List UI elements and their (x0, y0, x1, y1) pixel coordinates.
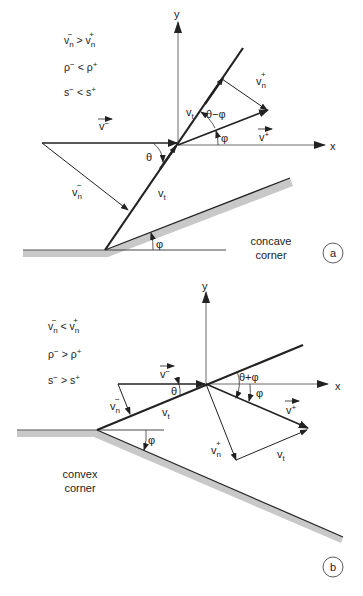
caption-concave-line2: corner (255, 249, 287, 261)
panel-badge-b-label: b (330, 561, 336, 573)
theta-plus-phi-label-b: θ+φ (239, 371, 259, 383)
panel-badge-a-label: a (330, 247, 337, 259)
relation-rho-a: ρ−<ρ+ (64, 60, 98, 73)
x-axis-label-b: x (335, 380, 341, 392)
y-axis-label-b: y (202, 280, 208, 292)
panel-b: vn−<vn+ ρ−>ρ+ s−>s+ y x (17, 280, 343, 577)
relations-a: vn−>vn+ ρ−<ρ+ s−<s+ (64, 30, 98, 98)
phi-flow-label-b: φ (256, 387, 263, 399)
relation-vn-b: vn−<vn+ (48, 316, 79, 335)
relations-b: vn−<vn+ ρ−>ρ+ s−>s+ (48, 316, 82, 386)
vn-minus-label-b: vn− (110, 395, 120, 415)
vt-arrow-upper-a (205, 78, 223, 104)
oblique-shock-diagram: vn−>vn+ ρ−<ρ+ s−<s+ y x (0, 0, 363, 596)
vn-minus-label-a: vn− (72, 181, 82, 201)
caption-convex-line2: corner (64, 482, 96, 494)
caption-concave-line1: concave (251, 235, 292, 247)
vt-vector-b (236, 430, 307, 460)
relation-rho-b: ρ−>ρ+ (48, 347, 82, 360)
vt-lower-label-a: vt (158, 187, 167, 202)
phi-wall-label-b: φ (148, 434, 155, 446)
vt-lower-label-b: vt (277, 448, 286, 463)
relation-vn-a: vn−>vn+ (64, 30, 95, 49)
v-minus-label-a: v− (99, 119, 110, 132)
theta-label-a: θ (146, 151, 152, 163)
theta-label-b: θ (171, 385, 177, 397)
vn-plus-label-b: vn+ (211, 439, 221, 459)
phi-wall-label-a: φ (156, 238, 163, 250)
theta-arc-a (153, 143, 163, 162)
relation-s-b: s−>s+ (48, 373, 80, 386)
phi-flow-arc-a (216, 131, 218, 145)
caption-convex-line1: convex (63, 468, 98, 480)
relation-s-a: s−<s+ (64, 85, 96, 98)
vt-upper-label-a: vt (186, 106, 195, 121)
shock-line-b (97, 345, 303, 430)
v-plus-label-a: v+ (259, 130, 270, 143)
x-axis-label-a: x (330, 140, 336, 152)
y-axis-label-a: y (174, 8, 180, 20)
vn-plus-label-a: vn+ (256, 70, 266, 90)
v-plus-label-b: v+ (286, 403, 297, 416)
theta-minus-phi-label-a: θ−φ (206, 108, 226, 120)
phi-wall-arc-b (144, 430, 146, 450)
vt-upper-label-b: vt (162, 406, 171, 421)
vn-minus-vector-a (42, 143, 128, 210)
v-minus-label-b: v− (160, 367, 171, 380)
theta-arc-b (179, 384, 180, 395)
phi-flow-arc-b (249, 384, 250, 401)
phi-flow-label-a: φ (221, 132, 228, 144)
panel-a: vn−>vn+ ρ−<ρ+ s−<s+ y x (23, 8, 343, 263)
